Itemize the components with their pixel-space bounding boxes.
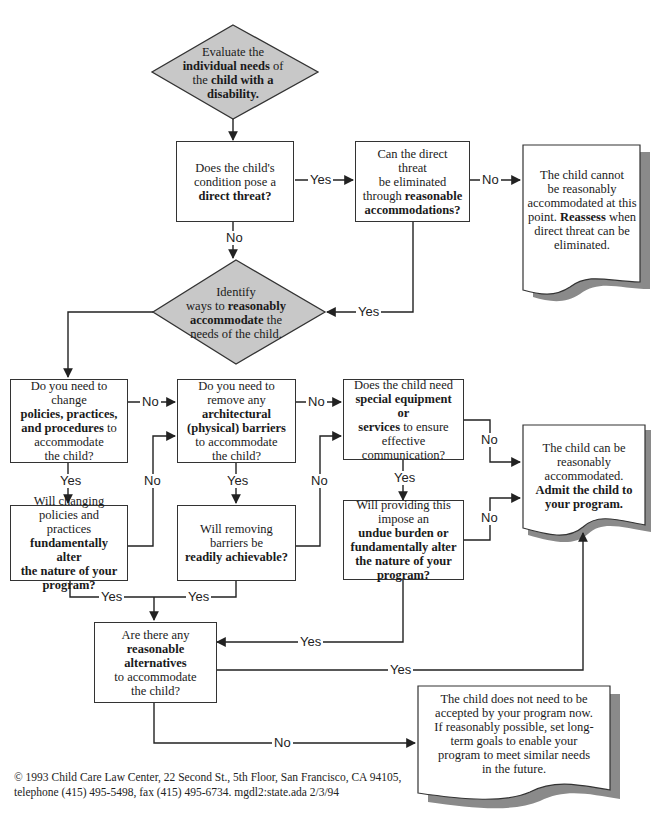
text: remove any	[207, 393, 266, 407]
text: Does the child need	[354, 378, 453, 392]
text: your program.	[545, 497, 623, 511]
text: accepted by your program now.	[435, 706, 593, 720]
edge-label-no: No	[272, 736, 293, 750]
text: fundamentally alter	[351, 540, 457, 554]
text: policies, practices,	[21, 407, 118, 421]
text: individual needs	[183, 59, 270, 73]
text: through	[363, 189, 405, 203]
edge-label-yes: Yes	[186, 590, 211, 604]
text: Admit the child to	[536, 483, 633, 497]
text: to accommodate	[114, 670, 196, 684]
text: direct threat can be	[534, 224, 629, 238]
edge-label-no: No	[479, 433, 500, 447]
text: and procedures	[21, 421, 104, 435]
edge-label-yes: Yes	[99, 590, 124, 604]
edge-label-yes: Yes	[388, 663, 413, 677]
text: architectural	[202, 407, 271, 421]
text: reasonably	[228, 299, 286, 313]
node-special-equipment: Does the child need special equipment or…	[343, 379, 464, 460]
text: Can the direct threat	[377, 147, 447, 175]
edge-label-no: No	[306, 395, 327, 409]
edge-label-yes: Yes	[392, 471, 417, 485]
text: special equipment or	[355, 392, 451, 420]
text: the	[264, 313, 282, 327]
edge-label-no: No	[479, 511, 500, 525]
text: accommodated at this	[528, 196, 637, 210]
text: eliminated.	[554, 238, 610, 252]
text: The child cannot	[540, 168, 624, 182]
text: term goals to enable your	[450, 734, 577, 748]
footer-line-1: © 1993 Child Care Law Center, 22 Second …	[14, 770, 401, 785]
text: to accommodate	[195, 435, 277, 449]
text: impose an	[378, 512, 429, 526]
text: the	[193, 73, 211, 87]
node-eliminate-threat: Can the direct threat be eliminated thro…	[355, 141, 470, 222]
text: services	[358, 420, 400, 434]
text: program to meet similar needs	[438, 748, 590, 762]
text: Will changing	[34, 494, 105, 508]
text: Are there any	[121, 628, 189, 642]
text: to ensure	[400, 420, 449, 434]
text: be eliminated	[379, 175, 447, 189]
edge-label-yes: Yes	[58, 474, 83, 488]
text: child with a	[211, 73, 274, 87]
node-direct-threat: Does the child's condition pose a direct…	[176, 141, 294, 222]
text: Do you need to	[198, 379, 275, 393]
node-cannot-accommodate: The child cannot be reasonably accommoda…	[525, 150, 639, 270]
text: Identify	[216, 285, 256, 299]
text: the child?	[45, 449, 94, 463]
text: to	[104, 421, 117, 435]
text: ways to	[186, 299, 228, 313]
edge-label-no: No	[142, 474, 163, 488]
text: the nature of your	[21, 564, 118, 578]
text: when	[606, 210, 636, 224]
text: Do you need to change	[31, 379, 108, 407]
node-change-policies: Do you need to change policies, practice…	[10, 379, 128, 463]
text: If reasonably possible, set long-	[434, 720, 593, 734]
text: in the future.	[482, 762, 546, 776]
text: the child?	[212, 449, 261, 463]
text: alternatives	[124, 656, 186, 670]
edge-label-yes: Yes	[356, 305, 381, 319]
text: communication?	[362, 448, 445, 462]
text: barriers be	[210, 536, 263, 550]
text: of	[270, 59, 284, 73]
text: accommodated.	[545, 469, 624, 483]
node-alternatives: Are there any reasonable alternatives to…	[94, 622, 217, 703]
edge-label-no: No	[309, 474, 330, 488]
text: The child does not need to be	[440, 692, 587, 706]
text: reasonably	[557, 455, 611, 469]
text: reasonable	[405, 189, 462, 203]
text: accommodations?	[365, 203, 461, 217]
text: disability.	[207, 87, 259, 101]
text: policies and practices	[39, 508, 99, 536]
text: Does the child's	[195, 161, 274, 175]
node-can-accommodate: The child can be reasonably accommodated…	[525, 430, 643, 522]
text: be reasonably	[547, 182, 616, 196]
text: (physical) barriers	[187, 421, 286, 435]
text: point.	[528, 210, 560, 224]
text: accommodate	[34, 435, 103, 449]
edge-label-no: No	[140, 395, 161, 409]
footer-line-2: telephone (415) 495-5498, fax (415) 495-…	[14, 785, 401, 800]
text: undue burden or	[358, 526, 448, 540]
text: program?	[377, 568, 430, 582]
text: readily achievable?	[185, 550, 288, 564]
text: direct threat?	[199, 189, 272, 203]
edge-label-no: No	[224, 231, 245, 245]
text: Evaluate the	[202, 45, 264, 59]
text: reasonable	[127, 642, 184, 656]
copyright-footer: © 1993 Child Care Law Center, 22 Second …	[14, 770, 401, 800]
node-remove-barriers: Do you need to remove any architectural …	[177, 379, 296, 463]
text: effective	[382, 434, 426, 448]
edge-label-no: No	[480, 173, 501, 187]
node-alter-nature-policies: Will changing policies and practices fun…	[10, 505, 128, 581]
text: fundamentally alter	[30, 536, 108, 564]
text: Reassess	[560, 210, 606, 224]
node-identify-ways: Identify ways to reasonably accommodate …	[168, 284, 304, 342]
text: needs of the child.	[190, 327, 282, 341]
edge-label-yes: Yes	[225, 474, 250, 488]
node-barriers-achievable: Will removing barriers be readily achiev…	[177, 505, 296, 581]
text: the nature of your	[355, 554, 452, 568]
edge-label-yes: Yes	[308, 173, 333, 187]
